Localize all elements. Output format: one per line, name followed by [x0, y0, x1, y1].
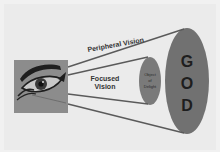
eye-icon	[14, 60, 68, 113]
focused-line-bottom	[68, 94, 148, 104]
object-of-delight-label-line1: Object	[144, 72, 156, 77]
focused-vision-label-line2: Vision	[95, 83, 116, 90]
peripheral-line-bottom	[68, 104, 184, 133]
object-of-delight-label-line3: Delight	[144, 84, 157, 89]
vision-diagram: Peripheral Vision Focused Vision Object …	[0, 0, 220, 152]
god-letter-g: G	[181, 53, 193, 70]
god-letter-d: D	[181, 97, 193, 114]
god-letter-o: O	[181, 75, 193, 92]
focused-line-top	[68, 57, 148, 75]
focused-vision-label-line1: Focused	[91, 75, 120, 82]
